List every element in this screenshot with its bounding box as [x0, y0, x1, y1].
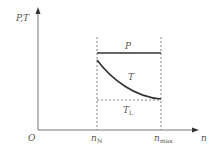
torque-label: T [128, 72, 135, 82]
torque-limit-label: T L [123, 105, 133, 116]
y-axis-label: P,T [15, 13, 30, 23]
x-tick-n-n: n N [91, 133, 102, 144]
svg-text:N: N [97, 137, 102, 144]
x-axis-arrow-icon [192, 128, 199, 133]
origin-label: O [28, 133, 36, 143]
power-label: P [124, 41, 132, 51]
y-axis-arrow-icon [36, 7, 41, 14]
x-tick-n-max: n max [154, 133, 173, 144]
svg-text:L: L [129, 109, 133, 116]
x-axis-label: n [201, 133, 207, 143]
power-torque-diagram: P,T O n P T T L n N n max [0, 0, 212, 146]
svg-text:max: max [160, 137, 173, 144]
